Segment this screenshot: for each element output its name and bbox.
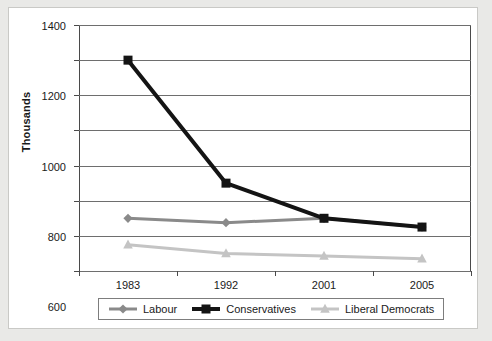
legend-entry-labour[interactable]: Labour [108,302,177,316]
x-tick-mark [471,271,472,276]
legend-entry-conservatives[interactable]: Conservatives [191,302,296,316]
data-point-marker [222,179,231,188]
legend-marker-diamond-icon [108,302,138,316]
chart-card: Thousands 0200400600800100012001400 1983… [8,7,478,329]
x-tick-label: 2001 [312,279,336,291]
x-tick-mark [177,271,178,276]
legend-entry-liberal-democrats[interactable]: Liberal Democrats [310,302,434,316]
legend-marker-square-icon [191,302,221,316]
x-tick-label: 1992 [214,279,238,291]
series-conservatives [124,56,427,232]
x-tick-mark [373,271,374,276]
x-tick-label: 1983 [116,279,140,291]
series-liberal-democrats [123,239,427,262]
y-tick-label: 1000 [42,161,66,173]
data-point-marker [320,214,329,223]
data-point-marker [418,223,427,232]
series-layer [79,25,471,271]
legend-marker-triangle-icon [310,302,340,316]
legend-label: Labour [143,303,177,315]
series-line [128,245,422,259]
y-tick-label: 1200 [42,90,66,102]
data-point-marker [124,56,133,65]
chart-legend: LabourConservativesLiberal Democrats [98,298,444,320]
legend-label: Liberal Democrats [345,303,434,315]
series-line [128,60,422,227]
legend-point-marker [118,304,127,313]
x-tick-label: 2005 [410,279,434,291]
data-point-marker [221,218,230,227]
page-background: Thousands 0200400600800100012001400 1983… [0,0,492,341]
y-tick-label: 1400 [42,20,66,32]
data-point-marker [123,214,132,223]
legend-point-marker [202,305,211,314]
legend-label: Conservatives [226,303,296,315]
x-tick-mark [79,271,80,276]
plot-area: 0200400600800100012001400 19831992200120… [79,25,471,271]
y-tick-label: 800 [48,231,66,243]
y-axis-title: Thousands [20,67,32,177]
x-tick-mark [275,271,276,276]
y-tick-label: 600 [48,301,66,313]
